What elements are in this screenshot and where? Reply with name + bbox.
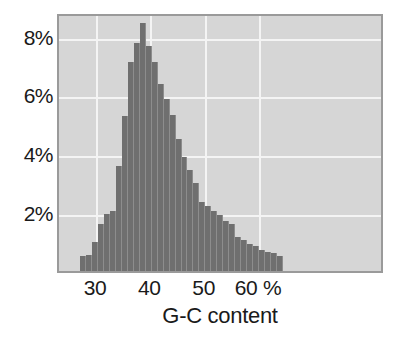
- y-axis-tick-4pct: 4%: [1, 144, 53, 165]
- y-axis-tick-2pct: 2%: [1, 203, 53, 224]
- x-axis-tick-60: 60 %: [218, 277, 298, 298]
- histogram-figure: 2%4%6%8% G-C content 30405060 %: [0, 0, 407, 338]
- y-axis-tick-8pct: 8%: [1, 27, 53, 48]
- histogram-bars: [59, 16, 381, 271]
- plot-area: [57, 14, 383, 273]
- histogram-bar: [277, 256, 283, 271]
- y-axis-tick-labels: 2%4%6%8%: [0, 0, 53, 338]
- x-axis-title: G-C content: [57, 303, 383, 329]
- y-axis-tick-6pct: 6%: [1, 85, 53, 106]
